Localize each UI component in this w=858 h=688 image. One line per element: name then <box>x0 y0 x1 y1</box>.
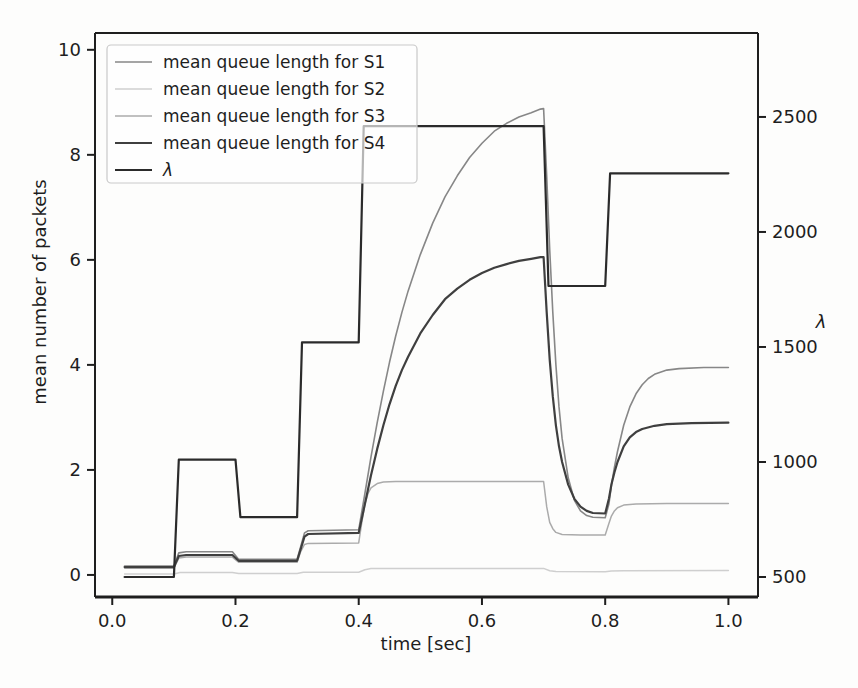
y-axis-label-right: λ <box>815 311 827 332</box>
right-tick-label: 1500 <box>772 336 818 357</box>
legend-entry-label-mean-queue-length-for-s1: mean queue length for S1 <box>163 52 385 72</box>
left-tick-label: 2 <box>70 459 81 480</box>
x-tick-label: 0.4 <box>344 610 373 631</box>
queueing-chart-figure: mean queue length for S1mean queue lengt… <box>0 0 858 688</box>
series-mean-queue-length-for-s2 <box>125 568 729 574</box>
x-tick-label: 0.0 <box>98 610 127 631</box>
left-tick-label: 8 <box>70 144 81 165</box>
x-tick-label: 0.2 <box>221 610 250 631</box>
left-tick-label: 0 <box>70 564 81 585</box>
legend: mean queue length for S1mean queue lengt… <box>107 45 417 183</box>
left-tick-label: 10 <box>58 39 81 60</box>
legend-entry-label-lambda: λ <box>162 160 173 180</box>
right-tick-label: 2500 <box>772 106 818 127</box>
legend-entry-label-mean-queue-length-for-s4: mean queue length for S4 <box>163 133 385 153</box>
legend-entry-label-mean-queue-length-for-s3: mean queue length for S3 <box>163 106 385 126</box>
left-tick-label: 6 <box>70 249 81 270</box>
line-chart: mean queue length for S1mean queue lengt… <box>0 0 858 688</box>
x-tick-label: 1.0 <box>714 610 743 631</box>
left-tick-label: 4 <box>70 354 81 375</box>
series-lambda <box>125 126 729 577</box>
legend-entry-label-mean-queue-length-for-s2: mean queue length for S2 <box>163 79 385 99</box>
x-tick-label: 0.8 <box>591 610 620 631</box>
x-axis-label: time [sec] <box>381 633 472 654</box>
y-axis-label-left: mean number of packets <box>29 179 50 404</box>
right-tick-label: 500 <box>772 566 806 587</box>
right-tick-label: 1000 <box>772 451 818 472</box>
right-tick-label: 2000 <box>772 221 818 242</box>
series-mean-queue-length-for-s4 <box>125 257 729 567</box>
x-tick-label: 0.6 <box>468 610 497 631</box>
